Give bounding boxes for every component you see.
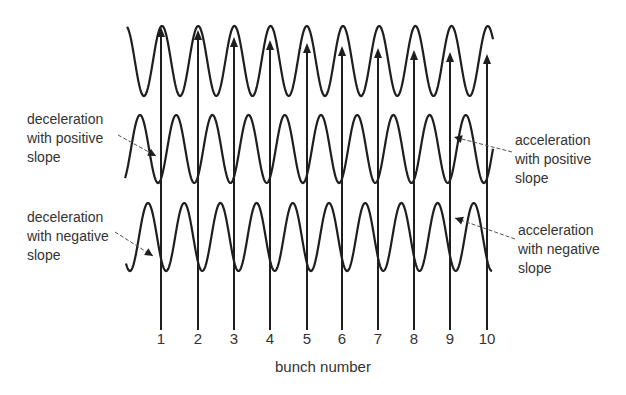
arrowhead-icon (483, 54, 491, 64)
wave-middle (125, 115, 493, 183)
label-deceleration-negative-slope: deceleration with negative slope (27, 208, 109, 265)
label-acceleration-positive-slope: acceleration with positive slope (515, 131, 591, 188)
rf-waves (125, 26, 493, 271)
leader-arrowhead-icon (144, 248, 153, 256)
arrowhead-icon (410, 50, 418, 60)
x-axis-label: bunch number (275, 358, 371, 375)
leader-line (454, 137, 512, 152)
tick-1: 1 (157, 330, 165, 347)
tick-9: 9 (446, 330, 454, 347)
arrowhead-icon (338, 46, 346, 56)
leader-arrowhead-icon (455, 217, 464, 225)
tick-2: 2 (194, 330, 202, 347)
tick-7: 7 (374, 330, 382, 347)
arrowhead-icon (446, 52, 454, 62)
arrowhead-icon (266, 40, 274, 50)
tick-4: 4 (266, 330, 274, 347)
label-acceleration-negative-slope: acceleration with negative slope (518, 221, 600, 278)
label-deceleration-positive-slope: deceleration with positive slope (27, 110, 103, 167)
tick-10: 10 (479, 330, 496, 347)
arrowhead-icon (230, 37, 238, 47)
tick-8: 8 (410, 330, 418, 347)
bunch-wave-diagram (0, 0, 626, 395)
tick-5: 5 (303, 330, 311, 347)
tick-6: 6 (338, 330, 346, 347)
tick-3: 3 (230, 330, 238, 347)
wave-top (127, 26, 493, 96)
wave-bottom (126, 203, 492, 271)
arrowhead-icon (374, 48, 382, 58)
arrowhead-icon (303, 43, 311, 53)
